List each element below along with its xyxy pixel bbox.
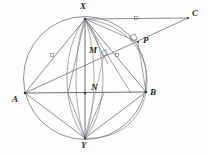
tick-on-XC-icon (135, 17, 138, 20)
vertex-dot-N (84, 92, 86, 94)
tick-on-AC-left-icon (51, 54, 54, 57)
point-label-C: C (192, 9, 198, 18)
vertex-dot-A (24, 92, 27, 95)
point-label-Y: Y (81, 141, 87, 150)
point-label-B: B (150, 88, 156, 97)
vertex-dot-Y (84, 137, 87, 140)
inner-left-lens-arc (76, 19, 85, 138)
vertex-dot-P (137, 41, 139, 43)
vertex-dot-X (84, 18, 87, 21)
geometry-figure: X C P M N A B Y (0, 0, 208, 155)
line-A-C (25, 18, 188, 93)
segment-P-B (138, 42, 146, 92)
point-label-M: M (89, 46, 97, 55)
point-label-A: A (12, 95, 18, 104)
vertex-dot-B (145, 91, 148, 94)
segment-X-M (85, 19, 108, 64)
point-label-P: P (143, 36, 149, 45)
geometry-canvas (0, 0, 208, 155)
point-label-X: X (80, 2, 86, 11)
point-label-N: N (91, 83, 98, 92)
vertex-dot-C (187, 17, 189, 19)
